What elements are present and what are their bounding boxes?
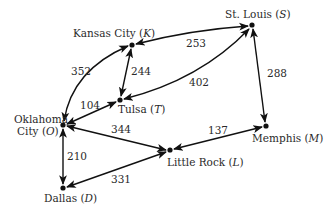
weight-oklahoma-city-dallas: 210 — [67, 150, 87, 162]
node-little-rock — [167, 147, 172, 152]
weight-st-louis-memphis: 288 — [267, 67, 287, 79]
weight-kansas-city-tulsa: 244 — [131, 65, 151, 77]
label-oklahoma-city-line2: City (O) — [17, 125, 59, 137]
edge-kansas-city-tulsa — [121, 49, 131, 96]
node-kansas-city — [129, 42, 134, 47]
label-tulsa: Tulsa (T) — [118, 103, 165, 115]
city-graph-diagram: Kansas City (K) St. Louis (S) Tulsa (T) … — [0, 0, 328, 218]
weight-tulsa-st-louis: 402 — [189, 76, 209, 88]
weight-kansas-city-oklahoma-city: 352 — [71, 65, 91, 77]
weight-kansas-city-st-louis: 253 — [186, 37, 206, 49]
label-st-louis: St. Louis (S) — [225, 8, 291, 20]
weight-tulsa-oklahoma-city: 104 — [80, 99, 100, 111]
label-little-rock: Little Rock (L) — [167, 156, 244, 168]
weight-oklahoma-city-little-rock: 344 — [111, 123, 131, 135]
node-st-louis — [249, 22, 254, 27]
edge-st-louis-memphis — [253, 29, 265, 122]
label-memphis: Memphis (M) — [252, 132, 323, 144]
node-tulsa — [117, 97, 122, 102]
label-oklahoma-city-line1: Oklahoma — [14, 113, 68, 125]
label-kansas-city: Kansas City (K) — [73, 27, 155, 39]
weight-dallas-little-rock: 331 — [111, 173, 131, 185]
label-dallas: Dallas (D) — [44, 192, 97, 204]
weight-little-rock-memphis: 137 — [208, 124, 228, 136]
node-memphis — [263, 123, 268, 128]
node-labels: Kansas City (K) St. Louis (S) Tulsa (T) … — [14, 8, 323, 204]
node-dallas — [60, 185, 65, 190]
